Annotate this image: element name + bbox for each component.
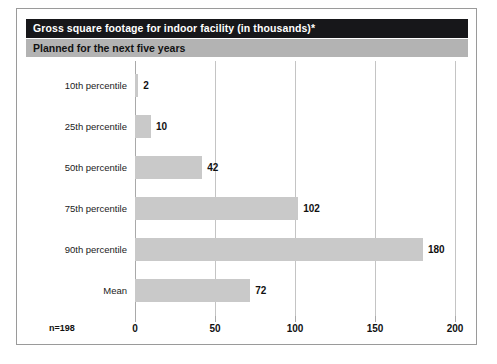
x-tick-label: 200 — [447, 323, 464, 334]
x-tick — [295, 316, 296, 322]
bar-value-label: 102 — [303, 188, 320, 229]
category-label: 25th percentile — [26, 106, 127, 147]
category-label: 75th percentile — [26, 188, 127, 229]
category-label: Mean — [26, 270, 127, 311]
category-label: 10th percentile — [26, 65, 127, 106]
category-label: 90th percentile — [26, 229, 127, 270]
plot-area: 10th percentile225th percentile1050th pe… — [26, 61, 468, 316]
bar — [135, 156, 202, 179]
bar-value-label: 10 — [156, 106, 167, 147]
bar — [135, 74, 138, 97]
chart-title: Gross square footage for indoor facility… — [26, 19, 468, 38]
category-label: 50th percentile — [26, 147, 127, 188]
x-tick — [375, 316, 376, 322]
bar-value-label: 42 — [207, 147, 218, 188]
x-tick-label: 100 — [287, 323, 304, 334]
x-tick — [455, 316, 456, 322]
bar-row: Mean72 — [26, 270, 468, 311]
bar — [135, 238, 423, 261]
x-tick-label: 50 — [209, 323, 220, 334]
chart-subtitle: Planned for the next five years — [26, 39, 468, 57]
sample-size-note: n=198 — [49, 323, 75, 333]
bar-row: 75th percentile102 — [26, 188, 468, 229]
bar-row: 25th percentile10 — [26, 106, 468, 147]
x-tick-label: 0 — [132, 323, 138, 334]
x-tick — [135, 316, 136, 322]
bar-value-label: 2 — [143, 65, 149, 106]
bar-row: 10th percentile2 — [26, 65, 468, 106]
bar — [135, 279, 250, 302]
bar — [135, 197, 298, 220]
bar — [135, 115, 151, 138]
bar-value-label: 72 — [255, 270, 266, 311]
bar-row: 50th percentile42 — [26, 147, 468, 188]
x-tick — [215, 316, 216, 322]
x-tick-label: 150 — [367, 323, 384, 334]
bar-value-label: 180 — [428, 229, 445, 270]
bar-row: 90th percentile180 — [26, 229, 468, 270]
chart-figure: Gross square footage for indoor facility… — [16, 8, 477, 345]
